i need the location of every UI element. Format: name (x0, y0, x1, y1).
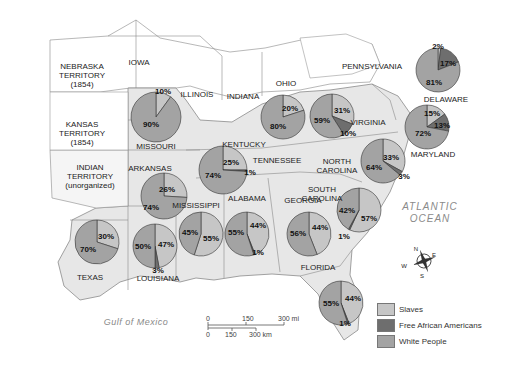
pie-percent-label: 15% (424, 109, 440, 118)
label-alabama: ALABAMA (228, 194, 266, 203)
legend-item-free: Free African Americans (377, 318, 482, 333)
compass-n-label: N (414, 245, 418, 254)
legend-label: Free African Americans (399, 321, 482, 330)
pie-percent-label: 30% (98, 232, 114, 241)
pie-percent-label: 59% (314, 116, 330, 125)
pie-percent-label: 55% (203, 234, 219, 243)
pie-percent-label: 47% (158, 240, 174, 249)
legend-swatch-slaves (377, 303, 395, 316)
pie-percent-label: 80% (270, 122, 286, 131)
pie-percent-label: 74% (143, 203, 159, 212)
scale-bar (208, 322, 284, 331)
compass-w-label: W (401, 262, 407, 271)
pie-percent-label: 10% (340, 129, 356, 138)
scale-km-300: 300 km (249, 331, 272, 338)
pie-percent-label: 55% (228, 228, 244, 237)
scale-mi-300: 300 mi (278, 315, 299, 322)
label-maryland: MARYLAND (411, 150, 455, 159)
pie-percent-label: 45% (182, 228, 198, 237)
pie-percent-label: 33% (383, 153, 399, 162)
pie-percent-label: 90% (143, 120, 159, 129)
label-virginia: VIRGINIA (350, 118, 385, 127)
scale-km-150: 150 (225, 331, 237, 338)
label-kansas-territory: KANSASTERRITORY(1854) (59, 120, 105, 147)
label-north-carolina: NORTHCAROLINA (317, 157, 358, 175)
pie-percent-label: 26% (159, 185, 175, 194)
pie-texas (75, 220, 119, 264)
pie-missouri (131, 92, 181, 142)
legend-label: Slaves (399, 305, 423, 314)
label-ohio: OHIO (276, 79, 296, 88)
compass-s-label: S (420, 272, 424, 281)
legend-label: White People (399, 337, 447, 346)
pie-percent-label: 44% (312, 223, 328, 232)
pie-percent-label: 42% (339, 206, 355, 215)
pie-percent-label: 3% (152, 266, 164, 275)
pie-percent-label: 1% (339, 319, 351, 328)
legend-swatch-free (377, 319, 395, 332)
legend-item-slaves: Slaves (377, 302, 482, 317)
scale-mi-150: 150 (242, 315, 254, 322)
label-gulf-of-mexico: Gulf of Mexico (104, 316, 169, 328)
pie-percent-label: 56% (290, 229, 306, 238)
pie-percent-label: 20% (282, 104, 298, 113)
label-nebraska-territory: NEBRASKATERRITORY(1854) (59, 62, 105, 89)
scale-mi-0: 0 (206, 315, 210, 322)
label-kentucky: KENTUCKY (222, 140, 266, 149)
label-indian-territory: INDIANTERRITORY(unorganized) (65, 163, 114, 190)
pie-percent-label: 74% (205, 171, 221, 180)
pie-percent-label: 3% (398, 172, 410, 181)
label-illinois: ILLINOIS (181, 90, 214, 99)
pie-arkansas (141, 173, 187, 219)
label-missouri: MISSOURI (136, 142, 176, 151)
label-tennessee: TENNESSEE (253, 156, 301, 165)
pie-percent-label: 1% (244, 168, 256, 177)
pie-percent-label: 64% (366, 163, 382, 172)
pie-percent-label: 57% (361, 214, 377, 223)
label-mississippi: MISSISSIPPI (172, 201, 220, 210)
pie-percent-label: 1% (252, 248, 264, 257)
compass-e-label: E (432, 251, 436, 260)
label-texas: TEXAS (77, 273, 103, 282)
label-delaware: DELAWARE (424, 95, 468, 104)
pie-percent-label: 10% (155, 87, 171, 96)
scale-km-0: 0 (206, 331, 210, 338)
label-georgia: GEORGIA (284, 196, 321, 205)
pie-percent-label: 81% (426, 78, 442, 87)
pie-percent-label: 17% (440, 59, 456, 68)
pie-percent-label: 44% (250, 221, 266, 230)
label-indiana: INDIANA (227, 92, 259, 101)
label-louisiana: LOUISIANA (137, 274, 180, 283)
pie-kentucky (261, 95, 305, 139)
label-pennsylvania: PENNSYLVANIA (342, 62, 402, 71)
pie-percent-label: 70% (80, 245, 96, 254)
pie-percent-label: 25% (223, 158, 239, 167)
pie-percent-label: 31% (334, 106, 350, 115)
label-arkansas: ARKANSAS (128, 164, 172, 173)
legend-item-white: White People (377, 334, 482, 349)
pie-percent-label: 72% (415, 129, 431, 138)
label-florida: FLORIDA (301, 263, 336, 272)
pie-percent-label: 1% (338, 232, 350, 241)
legend: Slaves Free African Americans White Peop… (377, 302, 482, 350)
pie-percent-label: 2% (432, 42, 444, 51)
pie-percent-label: 55% (323, 299, 339, 308)
pie-percent-label: 50% (135, 242, 151, 251)
slave-states-population-map: NEBRASKATERRITORY(1854) KANSASTERRITORY(… (0, 0, 508, 375)
label-iowa: IOWA (128, 58, 149, 67)
pie-percent-label: 13% (434, 121, 450, 130)
legend-swatch-white (377, 335, 395, 348)
pie-percent-label: 44% (345, 294, 361, 303)
label-atlantic-ocean: ATLANTICOCEAN (402, 201, 458, 225)
pie-slice-white (131, 92, 181, 142)
